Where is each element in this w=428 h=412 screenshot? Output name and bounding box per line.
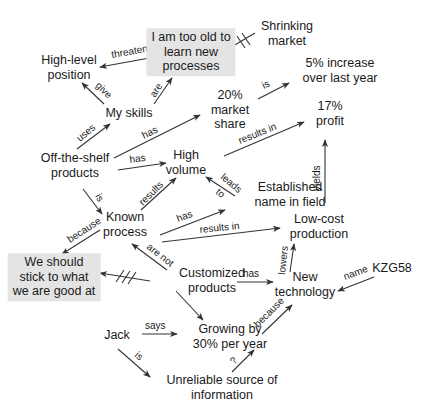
- node-kzg58: KZG58: [372, 261, 412, 276]
- node-new-technology: New technology: [275, 270, 335, 299]
- node-stick-to-what: We should stick to what we are good at: [8, 253, 101, 301]
- edge-label-to: to: [214, 186, 228, 200]
- edge-label-has-share: has: [140, 124, 159, 141]
- node-off-the-shelf: Off-the-shelf products: [41, 151, 110, 180]
- edge-customized-growing: [176, 291, 203, 320]
- node-established-name: Established name in field: [255, 180, 326, 209]
- edge-label-uses: uses: [74, 122, 97, 144]
- node-customized-products: Customized products: [179, 266, 245, 295]
- edge-label-has-newtech: has: [243, 268, 259, 279]
- edge-label-results-in-lowcost: results in: [199, 220, 240, 235]
- node-profit: 17% profit: [316, 99, 344, 128]
- node-too-old: I am too old to learn new processes: [146, 28, 235, 76]
- node-growing: Growing by 30% per year: [193, 322, 267, 351]
- node-5pct-increase: 5% increase over last year: [302, 56, 377, 85]
- node-market-share: 20% market share: [211, 88, 249, 132]
- node-low-cost-production: Low-cost production: [290, 212, 348, 241]
- node-my-skills: My skills: [105, 106, 152, 121]
- edge-label-is-unreliable: is: [133, 349, 146, 362]
- edge-label-is-known: is: [93, 192, 106, 204]
- node-known-process: Known process: [103, 210, 147, 239]
- edge-label-results: results: [137, 179, 166, 208]
- edge-label-name: name: [342, 263, 370, 282]
- edge-label-has-established: has: [175, 208, 194, 224]
- edge-label-says: says: [145, 320, 166, 331]
- edge-label-question: ?: [228, 354, 240, 366]
- node-high-level-position: High-level position: [41, 53, 97, 82]
- edge-lowers: [290, 244, 294, 272]
- edge-name: [338, 277, 374, 291]
- node-shrinking-market: Shrinking market: [261, 19, 313, 48]
- edge-customized-stick: [100, 273, 150, 281]
- node-jack: Jack: [104, 328, 130, 343]
- edge-label-is-increase: is: [260, 78, 271, 91]
- edge-has-volume: [118, 163, 166, 170]
- node-unreliable-source: Unreliable source of information: [166, 373, 277, 402]
- edge-label-are: are: [147, 81, 164, 99]
- node-high-volume: High volume: [166, 148, 206, 177]
- edge-label-has-volume: has: [129, 152, 146, 165]
